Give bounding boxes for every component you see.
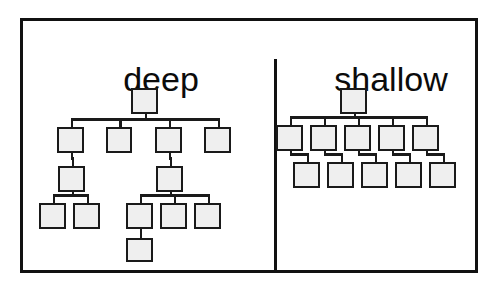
deep-edge-drop [174, 194, 177, 203]
deep-edge-bus [71, 118, 221, 121]
figure-root: deep shallow [0, 0, 500, 292]
shallow-node[interactable] [412, 125, 439, 151]
deep-node[interactable] [126, 238, 153, 262]
shallow-edge-drop [443, 153, 446, 162]
deep-edge-drop [140, 229, 143, 238]
deep-node[interactable] [156, 166, 183, 192]
shallow-node[interactable] [429, 162, 456, 188]
shallow-edge-drop [290, 116, 293, 125]
deep-edge-drop [170, 157, 173, 166]
shallow-edge-drop [307, 153, 310, 162]
panel-divider [274, 59, 277, 271]
deep-node[interactable] [58, 166, 85, 192]
deep-node[interactable] [106, 127, 132, 153]
shallow-edge-drop [341, 153, 344, 162]
shallow-node[interactable] [310, 125, 337, 151]
deep-edge-drop [218, 118, 221, 127]
shallow-node[interactable] [378, 125, 405, 151]
deep-edge-drop [72, 157, 75, 166]
deep-edge-drop [140, 194, 143, 203]
deep-node[interactable] [160, 203, 187, 229]
deep-node[interactable] [204, 127, 231, 153]
shallow-edge-drop [375, 153, 378, 162]
shallow-edge-drop [324, 116, 327, 125]
deep-edge-drop [71, 118, 74, 127]
shallow-edge-drop [358, 116, 361, 125]
shallow-node[interactable] [361, 162, 388, 188]
deep-node[interactable] [39, 203, 66, 229]
deep-node[interactable] [131, 88, 158, 114]
deep-edge-drop [53, 194, 56, 203]
panel-title-deep: deep [51, 61, 271, 97]
deep-edge-drop [119, 118, 122, 127]
deep-edge-drop [87, 194, 90, 203]
deep-edge-drop [208, 194, 211, 203]
shallow-edge-drop [426, 116, 429, 125]
shallow-node[interactable] [395, 162, 422, 188]
deep-node[interactable] [126, 203, 153, 229]
panel-title-shallow: shallow [281, 61, 500, 97]
shallow-node[interactable] [276, 125, 303, 151]
deep-node[interactable] [57, 127, 84, 153]
shallow-edge-drop [392, 116, 395, 125]
diagram-frame: deep shallow [20, 18, 478, 273]
deep-node[interactable] [194, 203, 221, 229]
shallow-node[interactable] [327, 162, 354, 188]
shallow-node[interactable] [340, 88, 367, 114]
shallow-node[interactable] [293, 162, 320, 188]
shallow-node[interactable] [344, 125, 371, 151]
shallow-edge-drop [409, 153, 412, 162]
deep-edge-bus [53, 194, 90, 197]
deep-node[interactable] [73, 203, 100, 229]
deep-edge-drop [169, 118, 172, 127]
deep-node[interactable] [155, 127, 182, 153]
